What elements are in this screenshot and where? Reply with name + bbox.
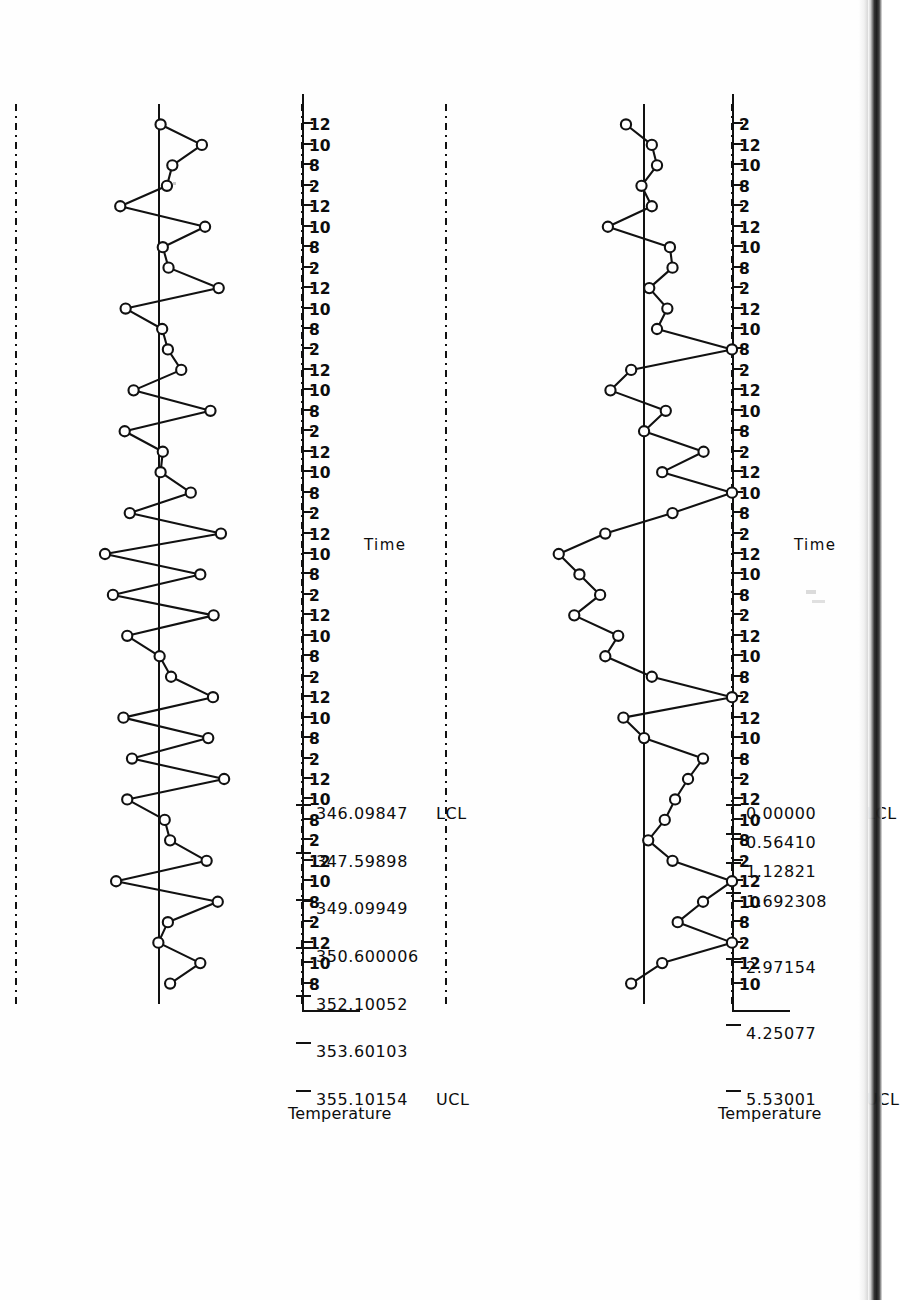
data-point-marker <box>165 978 175 988</box>
data-point-marker <box>120 426 130 436</box>
data-point-marker <box>647 140 657 150</box>
data-point-marker <box>652 324 662 334</box>
data-point-marker <box>683 774 693 784</box>
x-axis-title: Time <box>364 536 406 554</box>
scan-speck <box>806 590 816 594</box>
data-point-marker <box>125 508 135 518</box>
data-point-marker <box>639 426 649 436</box>
data-point-marker <box>670 794 680 804</box>
data-point-marker <box>727 692 737 702</box>
data-point-marker <box>167 160 177 170</box>
data-point-marker <box>636 181 646 191</box>
data-point-marker <box>197 140 207 150</box>
data-point-marker <box>657 958 667 968</box>
data-point-marker <box>727 344 737 354</box>
data-point-marker <box>647 201 657 211</box>
data-point-marker <box>200 222 210 232</box>
data-point-marker <box>122 631 132 641</box>
data-point-marker <box>203 733 213 743</box>
data-point-marker <box>155 467 165 477</box>
data-point-marker <box>208 692 218 702</box>
data-point-marker <box>165 835 175 845</box>
data-point-marker <box>727 938 737 948</box>
data-point-marker <box>216 528 226 538</box>
data-point-marker <box>163 917 173 927</box>
data-point-marker <box>127 753 137 763</box>
data-point-marker <box>600 528 610 538</box>
data-point-marker <box>219 774 229 784</box>
data-point-marker <box>209 610 219 620</box>
data-point-marker <box>569 610 579 620</box>
data-point-marker <box>652 160 662 170</box>
y-axis-title: Temperature <box>718 1104 822 1123</box>
data-point-marker <box>554 549 564 559</box>
data-point-marker <box>176 365 186 375</box>
data-point-marker <box>108 590 118 600</box>
data-point-marker <box>122 794 132 804</box>
data-point-marker <box>214 283 224 293</box>
data-point-marker <box>195 569 205 579</box>
data-point-marker <box>626 365 636 375</box>
data-point-marker <box>121 303 131 313</box>
data-point-marker <box>574 569 584 579</box>
data-point-marker <box>673 917 683 927</box>
data-point-marker <box>118 713 128 723</box>
data-point-marker <box>115 201 125 211</box>
data-point-marker <box>166 672 176 682</box>
data-point-marker <box>698 447 708 457</box>
data-point-marker <box>158 447 168 457</box>
data-point-marker <box>661 406 671 416</box>
data-point-marker <box>195 958 205 968</box>
data-point-marker <box>667 508 677 518</box>
data-point-marker <box>128 385 138 395</box>
data-point-marker <box>644 283 654 293</box>
data-point-marker <box>603 222 613 232</box>
data-point-marker <box>213 897 223 907</box>
data-point-marker <box>665 242 675 252</box>
data-point-marker <box>600 651 610 661</box>
x-axis-title: Time <box>794 536 836 554</box>
range-chart: 5.53001UCL4.250772.971541.6923081.128210… <box>438 90 798 1100</box>
data-point-marker <box>613 631 623 641</box>
scan-speck <box>812 600 825 603</box>
scan-edge-dark <box>868 0 882 1300</box>
data-point-marker <box>205 406 215 416</box>
data-point-marker <box>643 835 653 845</box>
series-line <box>559 124 732 983</box>
data-point-marker <box>727 876 737 886</box>
series-plot <box>438 90 798 1100</box>
data-point-marker <box>155 119 165 129</box>
data-point-marker <box>667 263 677 273</box>
data-point-marker <box>698 753 708 763</box>
data-point-marker <box>660 815 670 825</box>
scan-edge-light <box>858 0 868 1300</box>
xbar-chart: 355.10154UCL353.60103352.10052350.600006… <box>8 90 368 1100</box>
data-point-marker <box>158 242 168 252</box>
data-point-marker <box>727 488 737 498</box>
y-axis-title: Temperature <box>288 1104 392 1123</box>
data-point-marker <box>157 324 167 334</box>
data-point-marker <box>595 590 605 600</box>
data-point-marker <box>163 344 173 354</box>
data-point-marker <box>160 815 170 825</box>
data-point-marker <box>626 978 636 988</box>
series-plot <box>8 90 368 1100</box>
data-point-marker <box>605 385 615 395</box>
data-point-marker <box>662 303 672 313</box>
data-point-marker <box>202 856 212 866</box>
data-point-marker <box>618 713 628 723</box>
data-point-marker <box>639 733 649 743</box>
data-point-marker <box>667 856 677 866</box>
data-point-marker <box>153 938 163 948</box>
data-point-marker <box>657 467 667 477</box>
data-point-marker <box>162 181 172 191</box>
data-point-marker <box>698 897 708 907</box>
data-point-marker <box>155 651 165 661</box>
data-point-marker <box>186 488 196 498</box>
data-point-marker <box>163 263 173 273</box>
data-point-marker <box>621 119 631 129</box>
data-point-marker <box>647 672 657 682</box>
data-point-marker <box>111 876 121 886</box>
data-point-marker <box>100 549 110 559</box>
